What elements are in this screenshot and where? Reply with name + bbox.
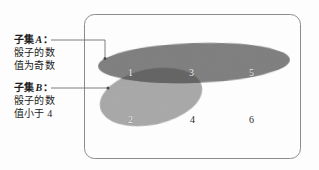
set-a-colon: ： (43, 34, 53, 45)
set-b-label-line3: 值小于 4 (14, 107, 55, 120)
venn-diagram-figure: 子集A： 骰子的数 值为奇数 子集B： 骰子的数 值小于 4 135246 (0, 0, 319, 170)
venn-element-6: 6 (249, 114, 254, 125)
set-b-label-line2: 骰子的数 (14, 94, 55, 107)
set-b-label-line1: 子集B： (14, 81, 55, 94)
venn-element-3: 3 (189, 67, 194, 78)
set-b-label: 子集B： 骰子的数 值小于 4 (14, 81, 55, 120)
set-a-label: 子集A： 骰子的数 值为奇数 (14, 33, 55, 72)
set-a-label-line1: 子集A： (14, 33, 55, 46)
set-a-heading: 子集 (14, 34, 34, 45)
set-a-name: A (34, 34, 43, 45)
venn-element-2: 2 (128, 114, 133, 125)
venn-element-1: 1 (128, 67, 133, 78)
set-a-label-line2: 骰子的数 (14, 46, 55, 59)
set-b-name: B (34, 82, 43, 93)
set-b-heading: 子集 (14, 82, 34, 93)
set-b-colon: ： (43, 82, 53, 93)
venn-element-4: 4 (190, 114, 195, 125)
set-a-label-line3: 值为奇数 (14, 59, 55, 72)
leader-dot-set-b (107, 87, 110, 90)
leader-line-set-a (51, 40, 105, 58)
leader-dot-set-a (104, 57, 107, 60)
venn-element-5: 5 (249, 67, 254, 78)
